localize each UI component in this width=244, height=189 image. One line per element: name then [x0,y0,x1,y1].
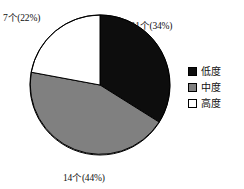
legend-item-mid[interactable]: 中度 [188,80,240,95]
legend-swatch-mid-icon [188,83,197,92]
pie-slice-high[interactable] [31,15,100,85]
pie-chart-canvas [29,14,171,156]
legend-label-high: 高度 [201,99,221,109]
pie-label-high: 7个(22%) [3,10,40,24]
legend-item-high[interactable]: 高度 [188,96,240,111]
pie-chart-figure: 11个(34%) 14个(44%) 7个(22%) 低度 中度 高度 [0,0,244,189]
pie-svg [29,14,171,156]
legend-swatch-low-icon [188,67,197,76]
legend-label-low: 低度 [201,67,221,77]
pie-label-low: 11个(34%) [131,18,172,32]
legend-item-low[interactable]: 低度 [188,64,240,79]
legend-label-mid: 中度 [201,83,221,93]
pie-label-mid: 14个(44%) [63,170,105,184]
chart-legend: 低度 中度 高度 [188,64,240,112]
legend-swatch-high-icon [188,99,197,108]
